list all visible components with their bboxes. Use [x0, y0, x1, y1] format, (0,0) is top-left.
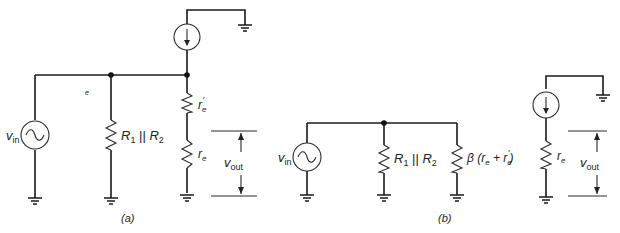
- ground-icon: [539, 197, 553, 203]
- current-source-return-wire-a: [187, 10, 245, 25]
- vin-label-a: vin: [6, 128, 20, 145]
- node-e-label: e: [85, 89, 89, 96]
- ac-source-icon: [21, 121, 49, 149]
- re-label-a: re: [198, 147, 207, 163]
- r1-r2-label-b: R1 || R2: [394, 151, 437, 168]
- circuit-diagram: vin R1 || R2 e re′ re: [0, 0, 620, 233]
- ground-icon: [300, 195, 314, 201]
- current-source-return-wire-b: [546, 76, 603, 95]
- current-source-icon: [174, 24, 200, 50]
- vin-label-b: vin: [278, 150, 292, 167]
- ground-icon: [596, 95, 610, 101]
- re-label-b: re: [557, 149, 566, 165]
- vout-label-b: vout: [580, 155, 600, 172]
- ground-icon: [28, 198, 42, 204]
- re-prime-label-a: re′: [198, 95, 207, 114]
- ground-icon: [180, 195, 194, 201]
- caption-b: (b): [438, 212, 452, 224]
- ac-source-icon: [293, 143, 321, 171]
- caption-a: (a): [121, 212, 135, 224]
- ground-icon: [104, 198, 118, 204]
- current-source-icon: [533, 92, 559, 118]
- panel-a: vin R1 || R2 e re′ re: [6, 10, 257, 224]
- resistor-re-icon: [541, 141, 551, 169]
- resistor-re-icon: [182, 140, 192, 168]
- resistor-r1-r2-icon: [379, 145, 389, 173]
- resistor-beta-icon: [452, 145, 462, 173]
- r1-r2-label-a: R1 || R2: [121, 128, 164, 145]
- ground-icon: [238, 25, 252, 31]
- beta-impedance-label: β (re + re′): [466, 148, 513, 167]
- resistor-r1-r2-icon: [106, 120, 116, 150]
- ground-icon: [450, 195, 464, 201]
- ground-icon: [377, 195, 391, 201]
- resistor-re-prime-icon: [182, 93, 192, 113]
- vout-label-a: vout: [224, 155, 244, 172]
- panel-b: vin R1 || R2 β (re + re′) re: [278, 76, 610, 224]
